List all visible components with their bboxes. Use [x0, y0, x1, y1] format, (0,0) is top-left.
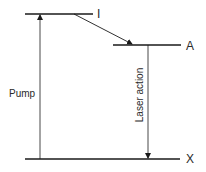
relaxation-arrow — [74, 14, 132, 44]
laser-action-label: Laser action — [134, 68, 145, 122]
pump-label: Pump — [9, 88, 36, 99]
level-a-label: A — [186, 39, 194, 53]
level-i-label: I — [97, 7, 100, 21]
level-x-label: X — [186, 152, 194, 166]
energy-level-diagram: I A X Pump Laser action — [0, 0, 206, 172]
